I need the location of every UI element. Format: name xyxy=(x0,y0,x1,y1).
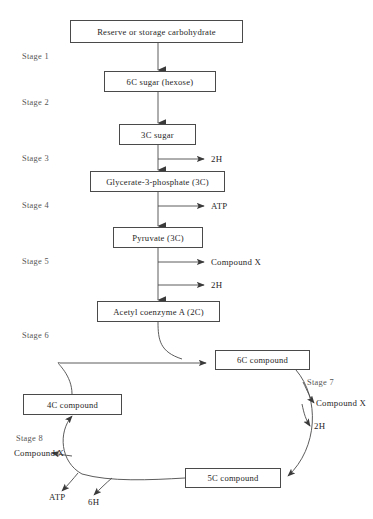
stage-label-8: Stage 8 xyxy=(16,434,43,443)
stage-label-5: Stage 5 xyxy=(22,257,49,266)
stage-label-1: Stage 1 xyxy=(22,52,49,61)
product-label-stage8-atp: ATP xyxy=(49,492,65,502)
node-3c-sugar: 3C sugar xyxy=(119,124,196,145)
node-label: Pyruvate (3C) xyxy=(132,233,184,243)
product-label-stage8-6h: 6H xyxy=(88,497,99,507)
product-label-stage3-2h: 2H xyxy=(211,154,222,164)
node-label: 4C compound xyxy=(47,400,98,410)
node-label: Acetyl coenzyme A (2C) xyxy=(113,307,204,317)
product-label-stage5-2h: 2H xyxy=(211,280,222,290)
node-pyruvate: Pyruvate (3C) xyxy=(113,227,203,248)
node-reserve-carbohydrate: Reserve or storage carbohydrate xyxy=(70,20,243,43)
stage-label-7: Stage 7 xyxy=(307,378,334,387)
node-label: 6C sugar (hexose) xyxy=(127,77,194,87)
node-label: Glycerate-3-phosphate (3C) xyxy=(106,177,209,187)
stage-label-3: Stage 3 xyxy=(22,154,49,163)
node-5c-compound: 5C compound xyxy=(185,468,281,488)
node-label: 6C compound xyxy=(237,355,288,365)
stage-label-6: Stage 6 xyxy=(22,331,49,340)
product-label-stage4-atp: ATP xyxy=(211,201,227,211)
node-label: Reserve or storage carbohydrate xyxy=(97,27,216,37)
stage-label-4: Stage 4 xyxy=(22,201,49,210)
node-label: 5C compound xyxy=(207,473,258,483)
product-label-stage5-compound-x: Compound X xyxy=(211,257,261,267)
node-6c-sugar-hexose: 6C sugar (hexose) xyxy=(104,71,216,92)
figure-title xyxy=(0,0,373,5)
node-6c-compound: 6C compound xyxy=(215,350,310,370)
node-4c-compound: 4C compound xyxy=(23,394,122,415)
product-label-stage7-2h: 2H xyxy=(314,421,325,431)
stage-label-2: Stage 2 xyxy=(22,98,49,107)
node-acetyl-coenzyme-a: Acetyl coenzyme A (2C) xyxy=(97,301,220,322)
pathway-diagram: Reserve or storage carbohydrate 6C sugar… xyxy=(0,0,373,519)
product-label-stage7-compound-x: Compound X xyxy=(316,398,366,408)
product-label-stage8-compound-x: Compound X xyxy=(14,448,64,458)
node-glycerate-3-phosphate: Glycerate-3-phosphate (3C) xyxy=(90,171,225,192)
node-label: 3C sugar xyxy=(141,130,174,140)
